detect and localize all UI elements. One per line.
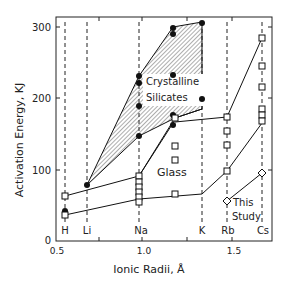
y-axis-title: Activation Energy, KJ [13, 83, 26, 198]
activation-energy-chart: 300 200 100 0 0.5 1.0 1.5 Ionic Radii, Å… [0, 0, 291, 292]
y-tick-label: 100 [32, 165, 51, 176]
ion-label-h: H [61, 225, 69, 236]
ion-label-rb: Rb [221, 225, 234, 236]
x-axis-title: Ionic Radii, Å [113, 263, 185, 276]
annotation-glass: Glass [157, 166, 187, 179]
y-tick-label: 300 [32, 22, 51, 33]
y-tick-label: 0 [45, 235, 51, 246]
annotation-this-study-line2: Study [232, 211, 261, 222]
ion-label-k: K [199, 225, 206, 236]
ion-label-li: Li [83, 225, 91, 236]
x-tick-label: 1.0 [137, 246, 152, 256]
x-tick-label: 0.5 [50, 246, 64, 256]
ion-label-cs: Cs [257, 225, 269, 236]
ion-label-na: Na [134, 225, 148, 236]
x-tick-label: 1.5 [227, 246, 241, 256]
annotation-this-study-line1: This [232, 197, 253, 208]
y-tick-label: 200 [32, 93, 51, 104]
annotation-crystalline-line2: Silicates [146, 92, 188, 103]
